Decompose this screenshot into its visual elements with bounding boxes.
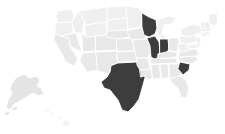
state-mississippi[interactable] [151,64,161,79]
alaska-aleutian-2[interactable] [12,106,18,111]
state-hawaii[interactable] [46,109,70,127]
us-map-svg[interactable] [0,0,225,134]
state-arkansas[interactable] [137,58,150,70]
state-alaska[interactable] [6,74,44,110]
state-south-dakota[interactable] [107,18,128,31]
state-new-york[interactable] [181,24,203,37]
state-oklahoma[interactable] [117,51,137,62]
state-vermont[interactable] [201,22,205,28]
state-new-hampshire[interactable] [205,22,210,28]
alaska-aleutian-1[interactable] [4,111,10,116]
state-delaware[interactable] [196,43,200,47]
state-new-jersey[interactable] [196,37,201,43]
state-florida[interactable] [170,76,189,98]
hawaii-big-island [62,120,70,127]
state-arizona[interactable] [80,52,98,72]
state-alabama[interactable] [160,64,169,79]
hawaii-maui [57,116,62,120]
hawaii-oahu [51,112,55,116]
hawaii-kauai [46,109,50,113]
state-washington[interactable] [56,9,74,23]
state-wyoming[interactable] [85,22,107,37]
state-maine[interactable] [209,13,218,26]
state-minnesota[interactable] [126,6,143,29]
us-states-map-figure [0,0,225,134]
state-tennessee[interactable] [150,58,177,64]
state-nebraska[interactable] [107,30,131,39]
state-wisconsin[interactable] [142,13,157,37]
state-michigan[interactable] [157,16,176,40]
